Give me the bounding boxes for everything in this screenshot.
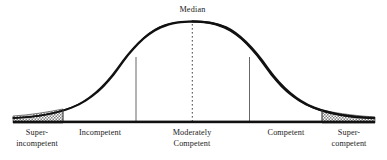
label-super-competent: Super- competent <box>314 128 384 149</box>
label-moderately-competent-line1: Moderately <box>173 128 212 137</box>
baseline-axis <box>13 121 375 124</box>
label-super-incompetent-line1: Super- <box>26 128 48 137</box>
label-incompetent: Incompetent <box>62 128 138 139</box>
bell-curve-figure: Median Super- incompetent Incompetent Mo… <box>0 0 387 160</box>
bell-curve-path <box>13 21 374 119</box>
label-super-incompetent-line2: incompetent <box>2 139 72 150</box>
label-moderately-competent-line2: Competent <box>154 139 230 150</box>
label-super-competent-line1: Super- <box>338 128 360 137</box>
label-incompetent-line1: Incompetent <box>79 128 121 137</box>
label-moderately-competent: Moderately Competent <box>154 128 230 149</box>
median-label: Median <box>155 5 230 15</box>
label-competent-line1: Competent <box>268 128 305 137</box>
label-competent: Competent <box>250 128 322 139</box>
label-super-competent-line2: competent <box>314 139 384 150</box>
